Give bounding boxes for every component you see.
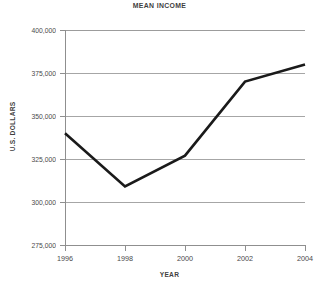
- gridline-400000: [65, 30, 305, 31]
- x-tick-label-2000: 2000: [167, 254, 203, 263]
- x-tick-label-1996: 1996: [47, 254, 83, 263]
- y-tick-label-300000: 300,000: [15, 198, 56, 207]
- y-tick-mark-400000: [60, 30, 65, 31]
- y-tick-mark-350000: [60, 116, 65, 117]
- x-tick-label-2002: 2002: [227, 254, 263, 263]
- gridline-325000: [65, 159, 305, 160]
- gridline-300000: [65, 202, 305, 203]
- gridline-375000: [65, 73, 305, 74]
- x-tick-label-2004: 2004: [287, 254, 319, 263]
- x-axis-title: YEAR: [29, 270, 310, 279]
- y-tick-mark-300000: [60, 202, 65, 203]
- y-tick-label-400000: 400,000: [15, 26, 56, 35]
- plot-area: [65, 30, 305, 245]
- y-tick-label-275000: 275,000: [15, 241, 56, 250]
- x-tick-mark-1998: [125, 246, 126, 251]
- x-tick-label-1998: 1998: [107, 254, 143, 263]
- x-tick-mark-2000: [185, 246, 186, 251]
- gridline-350000: [65, 116, 305, 117]
- chart-title: MEAN INCOME: [22, 1, 296, 10]
- y-tick-mark-375000: [60, 73, 65, 74]
- x-tick-mark-1996: [65, 246, 66, 251]
- y-tick-label-350000: 350,000: [15, 112, 56, 121]
- y-axis-line: [65, 30, 66, 246]
- y-tick-mark-325000: [60, 159, 65, 160]
- chart-container: MEAN INCOME U.S. DOLLARS YEAR 400,000 37…: [0, 0, 319, 290]
- x-tick-mark-2002: [245, 246, 246, 251]
- x-tick-mark-2004: [305, 246, 306, 251]
- y-tick-label-325000: 325,000: [15, 155, 56, 164]
- y-tick-label-375000: 375,000: [15, 69, 56, 78]
